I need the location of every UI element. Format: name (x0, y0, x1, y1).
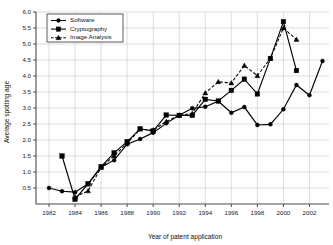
data-point (294, 68, 299, 73)
y-tick-label: 1.5 (22, 152, 31, 159)
data-point (255, 123, 259, 127)
data-point (320, 59, 324, 63)
data-point (203, 90, 208, 94)
data-point (281, 107, 285, 111)
data-point (229, 88, 234, 93)
x-tick-label: 2000 (277, 209, 291, 216)
series-layer (47, 19, 324, 201)
data-point (86, 188, 91, 192)
x-tick-label: 2002 (303, 209, 317, 216)
y-tick-label: 4.5 (22, 56, 31, 63)
x-axis-ticks: 1982198419861988199019921994199619982000… (42, 204, 317, 216)
x-tick-label: 1984 (68, 209, 82, 216)
y-tick-label: 3.0 (22, 104, 31, 111)
data-point (112, 158, 116, 162)
y-tick-label: 4.0 (22, 72, 31, 79)
data-point (138, 137, 142, 141)
data-point (242, 77, 247, 82)
data-point (190, 106, 194, 110)
data-point (255, 92, 260, 97)
data-point (203, 97, 208, 102)
x-tick-label: 1982 (42, 209, 56, 216)
y-tick-label: 5.5 (22, 24, 31, 31)
data-point (281, 19, 286, 24)
chart-figure: 0.51.01.52.02.53.03.54.04.55.05.56.0 198… (0, 0, 333, 245)
legend-label-cryptography: Cryptography (70, 25, 108, 32)
x-tick-label: 1986 (94, 209, 108, 216)
y-axis-ticks: 0.51.01.52.02.53.03.54.04.55.05.56.0 (22, 8, 36, 191)
data-point (242, 105, 246, 109)
x-tick-label: 1992 (172, 209, 186, 216)
y-tick-label: 2.0 (22, 136, 31, 143)
x-tick-label: 1996 (224, 209, 238, 216)
data-point (164, 113, 169, 118)
x-axis-title: Year of patent application (148, 233, 223, 241)
data-point (60, 189, 64, 193)
legend-label-software: Software (70, 16, 95, 23)
y-tick-label: 0.5 (22, 184, 31, 191)
data-point (203, 105, 207, 109)
data-point (268, 122, 272, 126)
x-tick-label: 1990 (146, 209, 160, 216)
data-point (229, 111, 233, 115)
x-tick-label: 1994 (198, 209, 212, 216)
y-tick-label: 1.0 (22, 168, 31, 175)
y-tick-label: 2.5 (22, 120, 31, 127)
data-point (229, 81, 234, 85)
data-point (294, 37, 299, 41)
legend-marker-square (56, 27, 60, 31)
y-axis-title: Average spotting age (3, 81, 11, 144)
data-point (307, 93, 311, 97)
data-point (294, 83, 298, 87)
data-point (47, 186, 51, 190)
data-point (60, 154, 65, 159)
legend-label-image-analysis: Image Analysis (70, 33, 112, 40)
data-point (242, 63, 247, 67)
data-point (216, 99, 221, 104)
data-series-software (47, 59, 324, 194)
y-tick-label: 5.0 (22, 40, 31, 47)
x-tick-label: 1998 (250, 209, 264, 216)
legend: SoftwareCryptographyImage Analysis (47, 14, 123, 42)
x-tick-label: 1988 (120, 209, 134, 216)
y-tick-label: 6.0 (22, 8, 31, 15)
line-chart-plot: 0.51.01.52.02.53.03.54.04.55.05.56.0 198… (0, 0, 333, 245)
y-tick-label: 3.5 (22, 88, 31, 95)
data-point (86, 182, 91, 187)
legend-marker-circle (57, 19, 61, 23)
